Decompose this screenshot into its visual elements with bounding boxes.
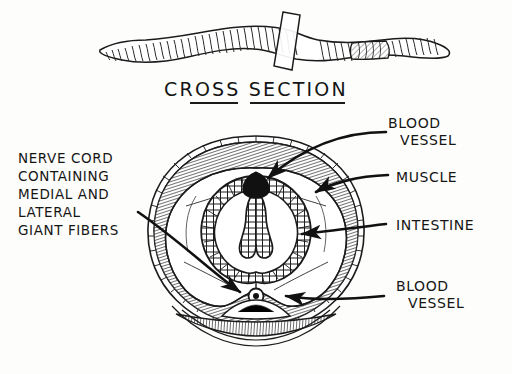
label-intestine: INTESTINE [396, 217, 474, 233]
diagram-canvas: CROSS SECTION [0, 0, 512, 374]
figure-title: CROSS SECTION [164, 78, 348, 103]
intestine-line-1: INTESTINE [396, 217, 474, 233]
figure-title-text: CROSS SECTION [164, 78, 348, 100]
nerve-cord-line-5: GIANT FIBERS [18, 222, 119, 238]
label-muscle: MUSCLE [396, 169, 457, 185]
label-nerve-cord: NERVE CORD CONTAINING MEDIAL AND LATERAL… [18, 150, 119, 238]
blood-vessel-ventral-line-1: BLOOD [396, 278, 449, 294]
cross-section-body [148, 136, 364, 346]
blood-vessel-dorsal-line-2: VESSEL [400, 132, 456, 148]
muscle-line-1: MUSCLE [396, 169, 457, 185]
nerve-cord-line-3: MEDIAL AND [18, 186, 109, 202]
earthworm-cross-section-figure: CROSS SECTION [0, 0, 512, 374]
blood-vessel-ventral-line-2: VESSEL [408, 295, 464, 311]
blood-vessel-dorsal-line-1: BLOOD [388, 115, 441, 131]
nerve-cord-line-2: CONTAINING [18, 168, 109, 184]
clitellum-band [351, 41, 390, 59]
nerve-cord-line-1: NERVE CORD [18, 150, 113, 166]
nerve-cord-line-4: LATERAL [18, 204, 81, 220]
